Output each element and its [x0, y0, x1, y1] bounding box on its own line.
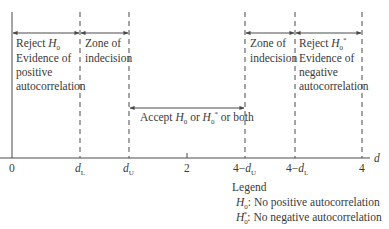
reject-h0-desc-2: positive [16, 65, 52, 79]
reject-h0-desc-3: autocorrelation [16, 79, 86, 93]
reject-h0-desc-1: Evidence of [16, 51, 71, 65]
tick-4-dl: 4−dL [286, 161, 308, 175]
accept-label: Accept H0 or H0* or both [140, 110, 254, 124]
reject-h0-label: Reject H0 [16, 36, 60, 50]
zone-left-line2: indecision [85, 51, 132, 65]
tick-0: 0 [9, 161, 15, 175]
legend-item-h0star: H0*: No negative autocorrelation [236, 210, 382, 224]
tick-dl: dL [75, 161, 85, 175]
reject-h0star-label: Reject H0* [299, 36, 347, 50]
reject-h0star-desc-3: autocorrelation [299, 79, 369, 93]
legend-title: Legend [232, 180, 266, 194]
tick-du: dU [123, 161, 134, 175]
zone-left-line1: Zone of [85, 36, 121, 50]
axis-label-d: d [374, 151, 380, 165]
zone-right-line2: indecision [250, 51, 297, 65]
tick-4-du: 4−dU [233, 161, 256, 175]
reject-h0star-desc-1: Evidence of [299, 51, 354, 65]
legend-item-h0: H0: No positive autocorrelation [236, 195, 380, 209]
reject-h0star-desc-2: negative [299, 65, 338, 79]
tick-2: 2 [184, 161, 190, 175]
zone-right-line1: Zone of [250, 36, 286, 50]
tick-4: 4 [359, 161, 365, 175]
